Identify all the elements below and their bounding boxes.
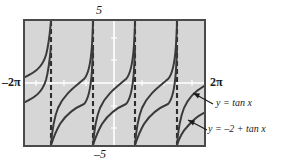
tangent-graph-figure: 5 –5 –2π 2π y = tan x y = –2 + tan x bbox=[0, 0, 281, 165]
curve-label-shifted-tan-x: y = –2 + tan x bbox=[208, 124, 266, 134]
axis-label-bottom: –5 bbox=[94, 148, 106, 160]
axis-label-top: 5 bbox=[96, 4, 102, 16]
axis-label-left: –2π bbox=[2, 76, 21, 88]
graph-canvas bbox=[0, 0, 281, 165]
axis-label-right: 2π bbox=[210, 76, 223, 88]
curve-label-tan-x: y = tan x bbox=[216, 98, 252, 108]
